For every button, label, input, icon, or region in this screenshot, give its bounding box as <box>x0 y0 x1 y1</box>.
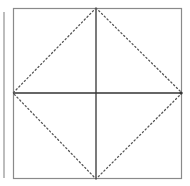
right-midpoint-marker <box>180 92 183 95</box>
square-diamond-diagram <box>0 0 190 186</box>
